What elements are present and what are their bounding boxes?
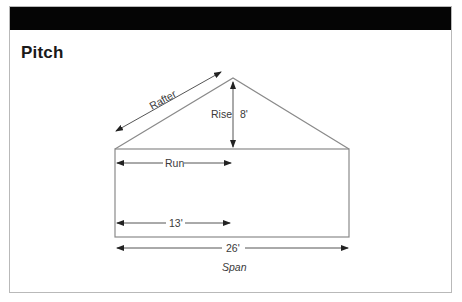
wall-rect [115, 149, 349, 237]
rise-label: Rise [211, 108, 232, 120]
run-label: Run [165, 157, 184, 169]
span-label: Span [222, 261, 247, 273]
rise-value: 8' [240, 108, 248, 120]
rafter-label: Rafter [147, 87, 178, 112]
span-value: 26' [226, 242, 240, 254]
run-value: 13' [169, 217, 183, 229]
pitch-diagram: Rafter Rise 8' Run 13' 26' Span [0, 0, 462, 302]
